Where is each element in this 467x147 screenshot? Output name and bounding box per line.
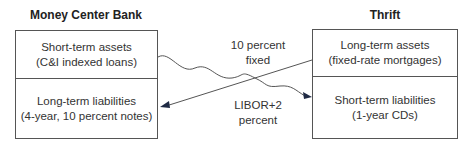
flow-arrows xyxy=(0,0,467,147)
arrowhead-icon xyxy=(303,92,312,99)
arrowhead-icon xyxy=(160,101,170,108)
fixed-payment-arrow xyxy=(166,60,312,106)
floating-payment-wavy-arrow xyxy=(158,56,305,96)
